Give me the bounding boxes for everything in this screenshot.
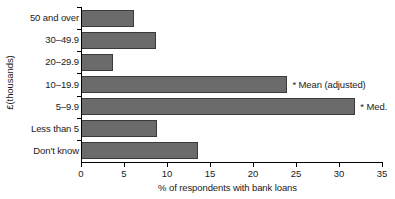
bar <box>81 142 198 159</box>
plot-area: * Mean (adjusted)* Med. <box>81 7 382 162</box>
category-label: 50 and over <box>16 12 79 23</box>
x-axis-title: % of respondents with bank loans <box>0 182 395 193</box>
y-axis-tick <box>77 51 82 52</box>
x-axis-tick-label: 0 <box>78 168 83 179</box>
bar <box>81 10 134 27</box>
x-axis-tick-label: 15 <box>205 168 216 179</box>
bar <box>81 120 157 137</box>
x-axis-title-text: % of respondents with bank loans <box>158 182 297 193</box>
bar-annotation: * Mean (adjusted) <box>292 79 365 90</box>
bar-row <box>81 142 382 159</box>
bar-row <box>81 98 382 115</box>
y-axis-tick <box>77 29 82 30</box>
category-label-column: 50 and over30–49.920–29.910–19.95–9.9Les… <box>16 7 79 162</box>
category-label: 10–19.9 <box>16 79 79 90</box>
x-axis-tick <box>382 162 383 167</box>
x-axis-tick <box>253 162 254 167</box>
x-axis-tick <box>81 162 82 167</box>
x-axis-tick <box>296 162 297 167</box>
x-axis-line <box>81 162 383 163</box>
bar <box>81 54 113 71</box>
x-axis-tick-label: 5 <box>121 168 126 179</box>
bar-annotation: * Med. <box>360 101 387 112</box>
x-axis-tick-label: 35 <box>377 168 388 179</box>
category-label: 20–29.9 <box>16 56 79 67</box>
bar-row <box>81 10 382 27</box>
x-axis-tick <box>210 162 211 167</box>
y-axis-tick <box>77 118 82 119</box>
y-axis-tick <box>77 73 82 74</box>
bar-row <box>81 120 382 137</box>
bar <box>81 32 156 49</box>
x-axis-tick-label: 25 <box>291 168 302 179</box>
y-axis-tick <box>77 96 82 97</box>
category-label: 5–9.9 <box>16 101 79 112</box>
y-axis-line <box>81 7 82 162</box>
x-axis-tick <box>167 162 168 167</box>
bar-row <box>81 54 382 71</box>
category-label: 30–49.9 <box>16 34 79 45</box>
category-label: Less than 5 <box>16 123 79 134</box>
x-axis-tick <box>124 162 125 167</box>
bar-chart: £(thousands) 50 and over30–49.920–29.910… <box>0 0 395 199</box>
x-axis-tick-label: 20 <box>248 168 259 179</box>
y-axis-title-text: £(thousands) <box>4 55 15 109</box>
bar <box>81 76 287 93</box>
x-axis-tick <box>339 162 340 167</box>
y-axis-tick <box>77 7 82 8</box>
x-axis-tick-label: 10 <box>162 168 173 179</box>
y-axis-tick <box>77 140 82 141</box>
category-label: Don't know <box>16 145 79 156</box>
x-axis-tick-label: 30 <box>334 168 345 179</box>
bar-row <box>81 32 382 49</box>
bar <box>81 98 355 115</box>
